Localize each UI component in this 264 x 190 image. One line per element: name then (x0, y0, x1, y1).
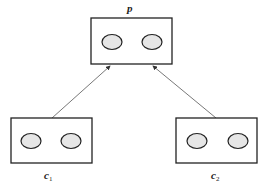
label-p-text: p (127, 2, 133, 14)
node-c2 (176, 118, 257, 163)
edge-c2-to-p (153, 66, 216, 118)
node-c1-oval-2 (61, 134, 81, 149)
node-c2-oval-1 (187, 134, 207, 149)
node-c1-oval-1 (21, 134, 41, 149)
node-c2-oval-2 (228, 134, 248, 149)
label-c2: c2 (211, 169, 219, 183)
diagram-canvas (0, 0, 264, 190)
node-p-oval-1 (102, 35, 122, 50)
label-c1-subscript: 1 (49, 175, 53, 183)
node-p (91, 18, 172, 64)
node-p-oval-2 (142, 35, 162, 50)
label-p: p (127, 2, 133, 14)
label-c1: c1 (44, 169, 52, 183)
edge-c1-to-p (52, 66, 110, 118)
label-c2-subscript: 2 (216, 175, 220, 183)
node-c1 (11, 118, 92, 163)
